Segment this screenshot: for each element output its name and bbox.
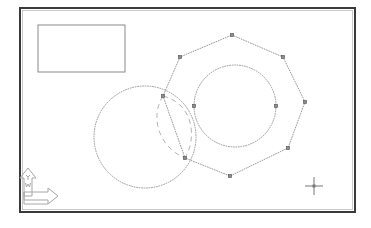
grip-handle[interactable] [286, 146, 289, 149]
entity-circle-left[interactable] [94, 86, 196, 188]
grip-handle[interactable] [192, 104, 195, 107]
entity-arc-preview-right [163, 96, 192, 158]
grip-handle[interactable] [161, 94, 164, 97]
grip-handle[interactable] [281, 55, 284, 58]
crosshair-pickbox [313, 185, 316, 188]
grip-handle[interactable] [274, 104, 277, 107]
grip-handle[interactable] [228, 174, 231, 177]
grip-handle[interactable] [178, 55, 181, 58]
polygon-grips[interactable] [161, 33, 306, 177]
viewport-frame-inner [23, 11, 353, 210]
entity-circle-inner[interactable] [194, 65, 276, 147]
ucs-icon[interactable] [20, 168, 58, 204]
entity-rectangle[interactable] [38, 25, 125, 72]
viewport-frame-outer [20, 8, 355, 212]
cad-drawing-canvas[interactable] [0, 0, 371, 228]
drawing-surface[interactable] [0, 0, 371, 228]
grip-handle[interactable] [183, 156, 186, 159]
ucs-world-marker-icon [26, 183, 31, 187]
grip-handle[interactable] [303, 100, 306, 103]
crosshair-cursor [305, 177, 323, 195]
circle-inner-grips[interactable] [192, 104, 277, 107]
grip-handle[interactable] [230, 33, 233, 36]
ucs-y-label-icon [26, 175, 30, 180]
ucs-origin-box [24, 192, 48, 204]
